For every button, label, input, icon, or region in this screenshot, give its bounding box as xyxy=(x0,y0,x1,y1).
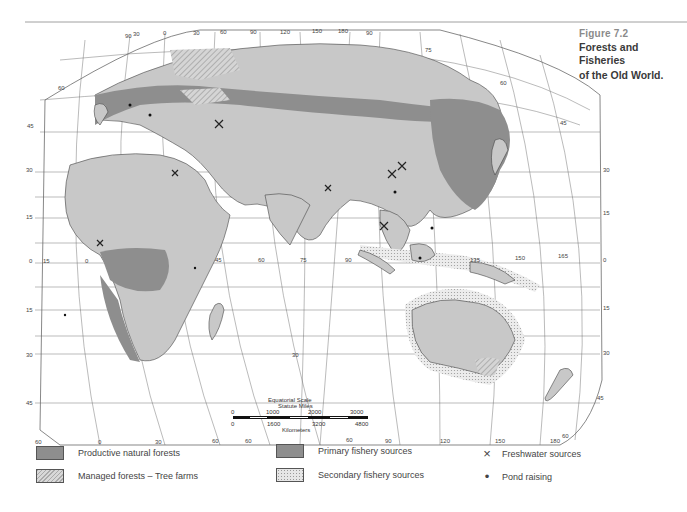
svg-text:0: 0 xyxy=(231,421,235,427)
svg-text:0: 0 xyxy=(231,409,235,415)
legend-label: Managed forests – Tree farms xyxy=(78,471,198,481)
svg-text:60: 60 xyxy=(562,433,569,439)
svg-text:60: 60 xyxy=(220,29,227,35)
svg-text:60: 60 xyxy=(258,257,265,263)
svg-text:135: 135 xyxy=(470,257,481,263)
svg-text:60: 60 xyxy=(58,85,65,91)
svg-text:120: 120 xyxy=(440,438,451,444)
legend-pond-raising: • Pond raising xyxy=(480,469,552,484)
svg-text:Kilometers: Kilometers xyxy=(282,427,310,433)
svg-text:30: 30 xyxy=(155,439,162,445)
svg-text:30: 30 xyxy=(603,350,610,356)
svg-text:60: 60 xyxy=(245,438,252,444)
svg-text:150: 150 xyxy=(495,438,506,444)
landmasses xyxy=(65,44,573,401)
svg-text:75: 75 xyxy=(425,47,432,53)
svg-text:4800: 4800 xyxy=(355,421,369,427)
svg-text:30: 30 xyxy=(26,167,33,173)
legend-label: Freshwater sources xyxy=(502,449,581,459)
svg-text:45: 45 xyxy=(597,395,604,401)
svg-text:60: 60 xyxy=(346,437,353,443)
legend-secondary-fishery: Secondary fishery sources xyxy=(276,468,424,482)
svg-text:60: 60 xyxy=(212,438,219,444)
productive-forest-swatch xyxy=(36,446,64,460)
svg-text:3200: 3200 xyxy=(312,421,326,427)
svg-text:1600: 1600 xyxy=(267,421,281,427)
svg-text:90: 90 xyxy=(250,29,257,35)
legend-label: Productive natural forests xyxy=(78,448,180,458)
svg-text:15: 15 xyxy=(26,214,33,220)
figure-title-line1: Forests and Fisheries xyxy=(579,41,687,67)
svg-text:90: 90 xyxy=(366,30,373,36)
svg-text:0: 0 xyxy=(98,439,102,445)
new-zealand xyxy=(545,368,573,401)
svg-text:120: 120 xyxy=(280,29,291,35)
figure-caption: Figure 7.2 Forests and Fisheries of the … xyxy=(579,28,687,82)
svg-text:45: 45 xyxy=(27,123,34,129)
svg-text:30: 30 xyxy=(603,167,610,173)
madagascar xyxy=(209,303,224,340)
legend-productive-forests: Productive natural forests xyxy=(36,446,180,460)
svg-text:1000: 1000 xyxy=(266,409,280,415)
svg-text:15: 15 xyxy=(43,258,50,264)
legend-managed-forests: Managed forests – Tree farms xyxy=(36,469,198,483)
svg-text:2000: 2000 xyxy=(308,409,322,415)
svg-text:30: 30 xyxy=(292,352,299,358)
svg-text:45: 45 xyxy=(215,257,222,263)
svg-text:75: 75 xyxy=(300,257,307,263)
pond-dot-icon: • xyxy=(480,469,494,484)
primary-fishery-swatch xyxy=(276,444,304,458)
svg-text:60: 60 xyxy=(35,439,42,445)
svg-text:150: 150 xyxy=(515,255,526,261)
managed-forest-swatch xyxy=(36,469,64,483)
svg-text:90: 90 xyxy=(125,33,132,39)
svg-text:30: 30 xyxy=(26,352,33,358)
svg-text:0: 0 xyxy=(29,258,33,264)
forest-central-africa xyxy=(100,248,169,291)
svg-text:30: 30 xyxy=(193,30,200,36)
legend-freshwater: × Freshwater sources xyxy=(480,446,581,461)
legend-label: Secondary fishery sources xyxy=(318,470,424,480)
legend-label: Pond raising xyxy=(502,472,552,482)
svg-text:90: 90 xyxy=(345,257,352,263)
svg-text:30: 30 xyxy=(133,31,140,37)
svg-text:165: 165 xyxy=(558,253,569,259)
svg-text:3000: 3000 xyxy=(350,409,364,415)
svg-text:45: 45 xyxy=(560,120,567,126)
svg-text:60: 60 xyxy=(500,80,507,86)
legend-label: Primary fishery sources xyxy=(318,446,412,456)
svg-text:45: 45 xyxy=(26,400,33,406)
svg-text:180: 180 xyxy=(338,28,349,34)
freshwater-x-icon: × xyxy=(480,446,494,461)
figure-title-line2: of the Old World. xyxy=(579,69,687,82)
secondary-fishery-swatch xyxy=(276,468,304,482)
svg-text:15: 15 xyxy=(603,305,610,311)
legend-primary-fishery: Primary fishery sources xyxy=(276,444,412,458)
svg-text:150: 150 xyxy=(312,28,323,34)
svg-text:180: 180 xyxy=(550,438,561,444)
svg-text:0: 0 xyxy=(603,257,607,263)
scale-bar: Equatorial Scale Statute Miles 0 1000 20… xyxy=(231,397,369,433)
svg-text:0: 0 xyxy=(163,30,167,36)
svg-text:15: 15 xyxy=(26,307,33,313)
figure-number: Figure 7.2 xyxy=(579,28,687,39)
svg-text:15: 15 xyxy=(603,210,610,216)
